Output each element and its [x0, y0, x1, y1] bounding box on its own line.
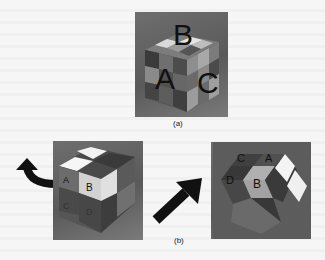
face-label-b: B: [86, 182, 93, 193]
cube-photo-b-right: C A D B: [211, 142, 311, 239]
caption-a: (a): [173, 119, 183, 128]
face-label-d: D: [226, 174, 234, 186]
face-label-d: D: [86, 207, 93, 217]
face-label-a: A: [265, 152, 272, 164]
face-label-c: C: [237, 152, 245, 164]
rubiks-cube-2x2-illustration: [53, 141, 143, 240]
face-label-c: C: [197, 68, 219, 98]
face-label-a: A: [63, 175, 69, 185]
face-label-c: C: [63, 201, 70, 211]
face-label-b: B: [173, 20, 193, 50]
face-label-a: A: [155, 64, 175, 94]
cube-photo-b-left: A B C D: [53, 141, 143, 240]
curved-rotate-arrow-icon: [14, 158, 56, 192]
diagonal-arrow-icon: [152, 178, 202, 224]
face-label-b: B: [253, 177, 261, 191]
cube-photo-a: B A C: [135, 12, 228, 117]
caption-b: (b): [174, 236, 184, 245]
